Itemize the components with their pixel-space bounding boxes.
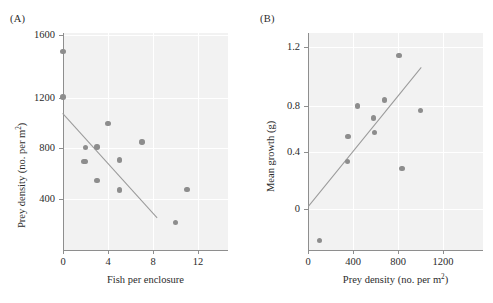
gridline-h bbox=[63, 199, 228, 200]
gridline-v bbox=[443, 33, 444, 250]
data-point bbox=[184, 187, 189, 192]
panel-b-x-axis-title-text: Prey density (no. per m bbox=[343, 274, 441, 285]
panel-a: (A) 1600 1200 800 400 0 4 8 12 Pre bbox=[0, 0, 246, 303]
ticklabel-x: 12 bbox=[182, 257, 214, 268]
tick-y bbox=[59, 199, 63, 200]
tick-y bbox=[304, 209, 308, 210]
tick-x bbox=[63, 250, 64, 254]
tick-y bbox=[59, 35, 63, 36]
tick-x bbox=[308, 250, 309, 254]
gridline-v bbox=[198, 33, 199, 250]
data-point bbox=[371, 115, 376, 120]
panel-a-y-axis bbox=[63, 33, 64, 251]
tick-y bbox=[304, 152, 308, 153]
data-point bbox=[94, 144, 99, 149]
panel-a-x-axis-title-text: Fish per enclosure bbox=[107, 274, 184, 285]
panel-a-x-axis-title: Fish per enclosure bbox=[63, 275, 228, 286]
gridline-h bbox=[63, 35, 228, 36]
tick-y bbox=[304, 106, 308, 107]
data-point bbox=[117, 187, 122, 192]
gridline-v bbox=[353, 33, 354, 250]
data-point bbox=[94, 178, 99, 183]
ticklabel-x: 1200 bbox=[427, 257, 459, 268]
panel-b-y-axis-title: Mean growth (g) bbox=[266, 121, 277, 192]
figure-container: (A) 1600 1200 800 400 0 4 8 12 Pre bbox=[0, 0, 493, 303]
data-point bbox=[345, 134, 350, 139]
tick-y bbox=[59, 148, 63, 149]
panel-a-label: (A) bbox=[10, 13, 25, 24]
panel-a-x-axis bbox=[63, 250, 228, 251]
gridline-v bbox=[398, 33, 399, 250]
ticklabel-x: 0 bbox=[47, 257, 79, 268]
data-point bbox=[105, 121, 110, 126]
panel-b-y-axis bbox=[308, 33, 309, 251]
data-point bbox=[139, 139, 144, 144]
tick-x bbox=[108, 250, 109, 254]
tick-x bbox=[398, 250, 399, 254]
panel-b-y-axis-title-text: Mean growth (g) bbox=[265, 121, 276, 192]
tick-y bbox=[304, 47, 308, 48]
data-point bbox=[117, 157, 122, 162]
panel-b-x-axis bbox=[308, 250, 483, 251]
ticklabel-y: 0.8 bbox=[270, 101, 300, 112]
ticklabel-y: 0 bbox=[270, 204, 300, 215]
panel-a-y-axis-title: Prey density (no. per m2) bbox=[17, 123, 28, 228]
panel-a-y-axis-title-sup: 2 bbox=[15, 126, 23, 130]
gridline-h bbox=[308, 106, 483, 107]
tick-x bbox=[198, 250, 199, 254]
gridline-v bbox=[108, 33, 109, 250]
panel-b-plot-area bbox=[308, 33, 483, 250]
data-point bbox=[382, 97, 387, 102]
panel-b-label: (B) bbox=[260, 13, 275, 24]
panel-b-x-axis-title-tail: ) bbox=[445, 274, 449, 285]
ticklabel-x: 800 bbox=[382, 257, 414, 268]
ticklabel-y: 1600 bbox=[21, 30, 55, 41]
ticklabel-x: 400 bbox=[337, 257, 369, 268]
panel-a-y-axis-title-tail: ) bbox=[16, 123, 27, 127]
gridline-h bbox=[308, 47, 483, 48]
tick-x bbox=[443, 250, 444, 254]
data-point bbox=[396, 53, 401, 58]
tick-x bbox=[153, 250, 154, 254]
panel-b: (B) 1.2 0.8 0.4 0 0 400 800 1200 M bbox=[247, 0, 493, 303]
gridline-h bbox=[63, 98, 228, 99]
gridline-v bbox=[153, 33, 154, 250]
gridline-h bbox=[308, 152, 483, 153]
data-point bbox=[399, 166, 404, 171]
ticklabel-x: 8 bbox=[137, 257, 169, 268]
ticklabel-y: 1200 bbox=[21, 93, 55, 104]
ticklabel-x: 0 bbox=[292, 257, 324, 268]
data-point bbox=[355, 103, 360, 108]
panel-a-y-axis-title-text: Prey density (no. per m bbox=[16, 130, 27, 228]
gridline-h bbox=[308, 209, 483, 210]
data-point bbox=[345, 159, 350, 164]
data-point bbox=[81, 159, 86, 164]
tick-x bbox=[353, 250, 354, 254]
panel-b-x-axis-title: Prey density (no. per m2) bbox=[298, 275, 493, 286]
data-point bbox=[60, 94, 65, 99]
ticklabel-x: 4 bbox=[92, 257, 124, 268]
ticklabel-y: 1.2 bbox=[270, 42, 300, 53]
